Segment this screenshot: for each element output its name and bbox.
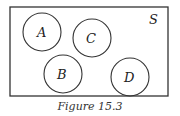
universe-label: S <box>149 12 158 27</box>
figure-caption: Figure 15.3 <box>56 100 122 113</box>
set-b-label: B <box>56 67 67 82</box>
venn-diagram: S A C B D Figure 15.3 <box>0 0 180 116</box>
set-a-label: A <box>36 25 46 40</box>
universe-rect <box>10 7 168 96</box>
set-c-label: C <box>86 31 96 46</box>
set-d-label: D <box>123 70 135 85</box>
